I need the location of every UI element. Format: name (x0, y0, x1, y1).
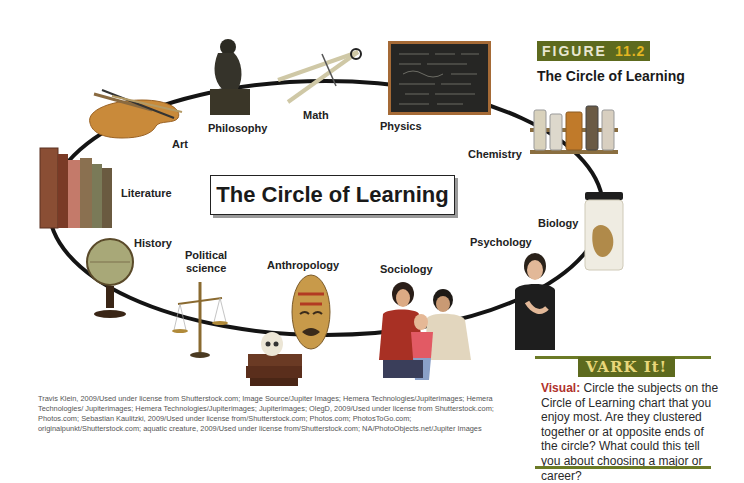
scales-icon (170, 278, 230, 360)
skull-on-books-icon (244, 328, 306, 388)
figure-word: FIGURE (542, 43, 607, 59)
figure-number: 11.2 (615, 43, 645, 59)
subject-label-philosophy: Philosophy (208, 122, 267, 135)
chemical-bottles-icon (528, 100, 620, 158)
compass-icon (274, 44, 374, 106)
family-icon (373, 280, 475, 384)
subject-label-political-science: Political science (185, 249, 227, 275)
subject-label-history: History (134, 237, 172, 250)
subject-label-biology: Biology (538, 217, 578, 230)
specimen-jar-frog-icon (583, 190, 625, 272)
vark-lead: Visual: (541, 381, 580, 395)
photo-credits: Travis Klein, 2009/Used under license fr… (38, 394, 516, 434)
subject-label-math: Math (303, 109, 329, 122)
vark-header: VARK It! (578, 357, 675, 377)
figure-number-banner: FIGURE 11.2 (537, 41, 650, 61)
thinking-woman-icon (507, 252, 559, 350)
subject-label-art: Art (172, 138, 188, 151)
subject-label-physics: Physics (380, 120, 422, 133)
center-title-box: The Circle of Learning (210, 175, 455, 215)
books-icon (38, 146, 114, 230)
subject-label-anthropology: Anthropology (267, 259, 339, 272)
subject-label-psychology: Psychology (470, 236, 532, 249)
figure-title: The Circle of Learning (537, 68, 685, 84)
subject-label-sociology: Sociology (380, 263, 433, 276)
globe-icon (84, 238, 136, 320)
subject-label-chemistry: Chemistry (468, 148, 522, 161)
thinker-statue-icon (204, 37, 254, 117)
vark-bottom-rule (535, 466, 711, 469)
center-title: The Circle of Learning (216, 182, 448, 208)
chalkboard-icon (388, 41, 491, 115)
palette-icon (82, 88, 188, 142)
subject-label-literature: Literature (121, 187, 172, 200)
